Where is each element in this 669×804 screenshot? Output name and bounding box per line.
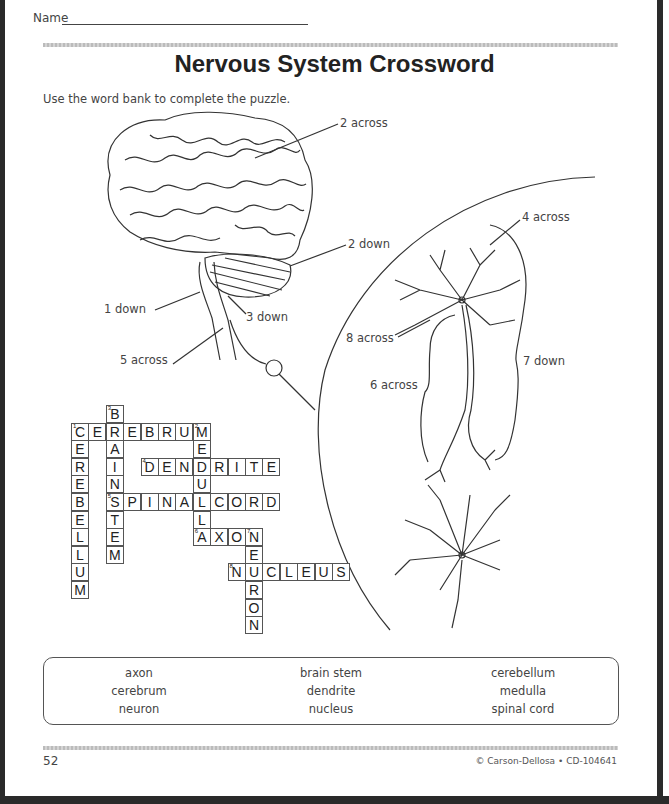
crossword-cell[interactable]: O	[245, 599, 263, 617]
crossword-cell[interactable]: U	[193, 475, 211, 493]
label-1-down: 1 down	[104, 302, 146, 316]
crossword-cell[interactable]: S	[332, 563, 350, 581]
crossword-cell[interactable]: E	[297, 563, 315, 581]
crossword-cell[interactable]: L	[71, 546, 89, 564]
crossword-cell[interactable]: O	[228, 493, 246, 511]
crossword-cell[interactable]: E	[158, 458, 176, 476]
crossword-cell[interactable]: U	[315, 563, 333, 581]
label-3-down: 3 down	[246, 310, 288, 324]
crossword-cell[interactable]: T	[106, 511, 124, 529]
label-8-across: 8 across	[346, 331, 394, 345]
crossword-cell[interactable]: R	[71, 458, 89, 476]
crossword-cell[interactable]: M2	[193, 423, 211, 441]
word-bank-item: cerebrum	[44, 684, 234, 698]
crossword-cell[interactable]: R	[106, 423, 124, 441]
clue-number: 8	[230, 563, 233, 570]
neuron-cell-body-top	[395, 248, 520, 335]
crossword-cell[interactable]: A	[106, 440, 124, 458]
crossword-cell[interactable]: D	[193, 458, 211, 476]
crossword-cell[interactable]: E	[71, 440, 89, 458]
crossword-cell[interactable]: N	[175, 458, 193, 476]
crossword-cell[interactable]: R	[158, 423, 176, 441]
word-bank-item: spinal cord	[428, 702, 618, 716]
clue-number: 1	[73, 423, 76, 430]
brain-stem	[199, 262, 220, 360]
crossword-cell[interactable]: N8	[228, 563, 246, 581]
crossword-cell[interactable]: T	[245, 458, 263, 476]
label-2-down: 2 down	[348, 237, 390, 251]
word-bank-item: cerebellum	[428, 666, 618, 680]
copyright: © Carson-Dellosa • CD-104641	[475, 756, 617, 766]
crossword-cell[interactable]: U	[175, 423, 193, 441]
crossword-cell[interactable]: R	[245, 493, 263, 511]
crossword-cell[interactable]: U	[245, 563, 263, 581]
clue-number: 2	[195, 423, 198, 430]
crossword-cell[interactable]: I	[141, 493, 159, 511]
crossword-cell[interactable]: E	[262, 458, 280, 476]
crossword-cell[interactable]: A	[175, 493, 193, 511]
crossword-cell[interactable]: E	[123, 423, 141, 441]
crossword-cell[interactable]: U	[71, 563, 89, 581]
seven-down-brace	[490, 225, 526, 460]
bottom-divider	[43, 746, 618, 750]
label-2-across: 2 across	[340, 116, 388, 130]
crossword-cell[interactable]: P	[123, 493, 141, 511]
crossword-cell[interactable]: D	[262, 493, 280, 511]
nervous-system-illustration	[0, 0, 669, 660]
clue-number: 4	[143, 458, 146, 465]
label-6-across: 6 across	[370, 378, 418, 392]
crossword-cell[interactable]: E	[245, 546, 263, 564]
word-bank-item: nucleus	[236, 702, 426, 716]
crossword-cell[interactable]: N	[106, 475, 124, 493]
crossword-cell[interactable]: C	[210, 493, 228, 511]
crossword-cell[interactable]: B	[71, 493, 89, 511]
crossword-cell[interactable]: N	[245, 616, 263, 634]
brain-cerebrum-outline	[108, 112, 312, 259]
crossword-cell[interactable]: E	[106, 528, 124, 546]
label-4-across: 4 across	[522, 210, 570, 224]
crossword-cell[interactable]: L	[71, 528, 89, 546]
crossword-cell[interactable]: D4	[141, 458, 159, 476]
inset-circle	[266, 360, 282, 376]
crossword-cell[interactable]: N	[158, 493, 176, 511]
clue-number: 7	[247, 528, 250, 535]
word-bank-item: dendrite	[236, 684, 426, 698]
word-bank-item: medulla	[428, 684, 618, 698]
crossword-cell[interactable]: N7	[245, 528, 263, 546]
six-across-brace	[421, 315, 455, 462]
crossword-cell[interactable]: I	[228, 458, 246, 476]
crossword-cell[interactable]: E	[193, 440, 211, 458]
crossword-cell[interactable]: A6	[193, 528, 211, 546]
word-bank-item: axon	[44, 666, 234, 680]
word-bank: axon brain stem cerebellum cerebrum dend…	[43, 657, 619, 725]
clue-number: 5	[108, 493, 111, 500]
crossword-cell[interactable]: O	[228, 528, 246, 546]
crossword-cell[interactable]: C	[262, 563, 280, 581]
crossword-cell[interactable]: L	[280, 563, 298, 581]
label-5-across: 5 across	[120, 353, 168, 367]
crossword-cell[interactable]: X	[210, 528, 228, 546]
crossword-cell[interactable]: L	[193, 511, 211, 529]
neuron-cell-body-bottom	[395, 485, 510, 590]
crossword-cell[interactable]: E	[88, 423, 106, 441]
word-bank-item: brain stem	[236, 666, 426, 680]
crossword-cell[interactable]: B	[141, 423, 159, 441]
clue-number: 6	[195, 528, 198, 535]
page-number: 52	[43, 754, 58, 768]
crossword-cell[interactable]: R	[210, 458, 228, 476]
word-bank-item: neuron	[44, 702, 234, 716]
crossword-cell[interactable]: L	[193, 493, 211, 511]
crossword-cell[interactable]: M	[106, 546, 124, 564]
crossword-cell[interactable]: S5	[106, 493, 124, 511]
page-frame-bottom	[0, 796, 669, 804]
label-7-down: 7 down	[523, 354, 565, 368]
crossword-cell[interactable]: E	[71, 475, 89, 493]
clue-number: 3	[108, 405, 111, 412]
crossword-cell[interactable]: E	[71, 511, 89, 529]
crossword-cell[interactable]: I	[106, 458, 124, 476]
crossword-cell[interactable]: R	[245, 581, 263, 599]
neuron-axon	[440, 305, 468, 470]
crossword-cell[interactable]: B3	[106, 405, 124, 423]
crossword-cell[interactable]: C1	[71, 423, 89, 441]
crossword-cell[interactable]: M	[71, 581, 89, 599]
